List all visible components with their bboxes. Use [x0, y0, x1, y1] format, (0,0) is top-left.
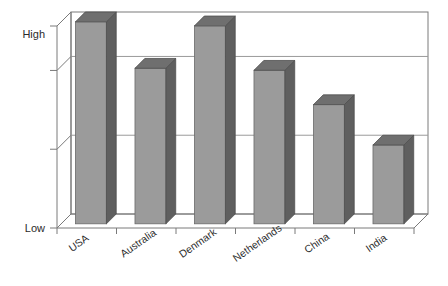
- x-axis-label-china: China: [302, 230, 331, 256]
- bar: [194, 16, 235, 224]
- bar: [75, 12, 116, 224]
- bar-side-face: [225, 16, 235, 224]
- bar-side-face: [106, 12, 116, 224]
- bar: [373, 135, 414, 224]
- gridline-depth-tick: [57, 56, 71, 70]
- bar-front-face: [373, 145, 404, 224]
- bar-side-face: [404, 135, 414, 224]
- bar-front-face: [194, 26, 225, 224]
- plot-left-wall: [57, 12, 71, 228]
- bar-front-face: [135, 68, 166, 224]
- bar-chart: HighLowUSAAustraliaDenmarkNetherlandsChi…: [0, 0, 448, 286]
- bar: [254, 60, 295, 223]
- bar: [313, 95, 354, 224]
- bar-front-face: [254, 70, 285, 224]
- x-axis-label-usa: USA: [66, 232, 91, 254]
- x-axis-label-denmark: Denmark: [177, 225, 219, 260]
- gridline-depth-tick: [57, 135, 71, 149]
- y-axis-label-low: Low: [25, 222, 45, 234]
- x-axis-label-australia: Australia: [118, 226, 158, 259]
- bar: [135, 58, 176, 223]
- bar-side-face: [285, 60, 295, 223]
- bar-front-face: [75, 22, 106, 224]
- bar-front-face: [313, 105, 344, 224]
- x-axis-ticks: [57, 228, 414, 234]
- bar-side-face: [166, 58, 176, 223]
- x-axis-label-india: India: [363, 231, 389, 254]
- y-axis-label-high: High: [22, 28, 45, 40]
- chart-canvas: HighLowUSAAustraliaDenmarkNetherlandsChi…: [0, 0, 448, 286]
- y-axis-ticks: [50, 26, 57, 228]
- bar-side-face: [344, 95, 354, 224]
